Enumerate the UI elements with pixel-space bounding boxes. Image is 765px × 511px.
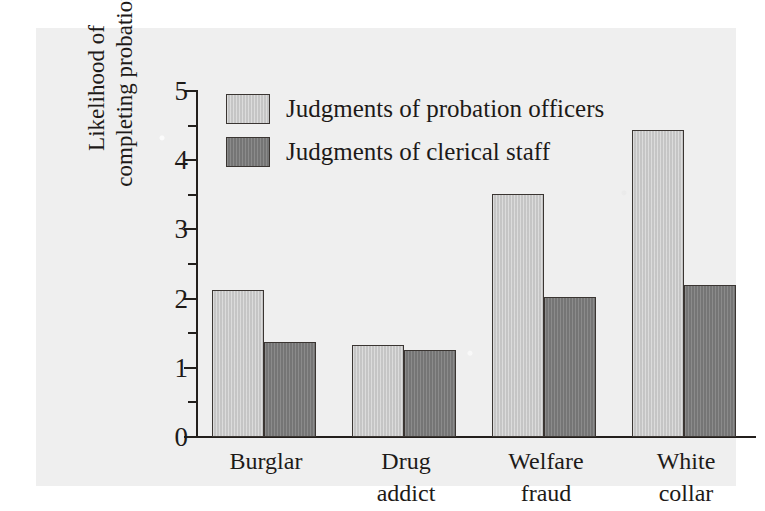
y-axis-tick-minor <box>188 125 196 127</box>
legend-item-1[interactable]: Judgments of probation officers <box>226 90 604 127</box>
x-axis-label-line: White <box>616 446 756 478</box>
x-axis-label-burglar: Burglar <box>196 446 336 478</box>
y-axis-tick-label: 0 <box>175 424 189 451</box>
x-axis-label-line: fraud <box>476 478 616 510</box>
y-axis-tick-label: 2 <box>175 285 189 312</box>
figure-bar-chart: Likelihood of completing probation 01234… <box>0 0 765 511</box>
legend-item-2[interactable]: Judgments of clerical staff <box>226 133 604 170</box>
chart-panel: Likelihood of completing probation 01234… <box>36 28 736 486</box>
legend-label-2: Judgments of clerical staff <box>286 139 550 164</box>
legend-swatch-1 <box>226 94 270 124</box>
bar-white-collar-series-2[interactable] <box>684 285 736 437</box>
x-axis-label-line: collar <box>616 478 756 510</box>
chart-legend: Judgments of probation officersJudgments… <box>226 90 604 176</box>
y-axis-title-line1: Likelihood of <box>83 0 111 208</box>
y-axis-tick-label: 5 <box>175 78 189 105</box>
y-axis-tick-minor <box>188 194 196 196</box>
y-axis-tick-minor <box>188 332 196 334</box>
legend-swatch-2 <box>226 137 270 167</box>
y-axis-tick-label: 3 <box>175 216 189 243</box>
bar-drug-addict-series-2[interactable] <box>404 350 456 437</box>
y-axis-title-line2: completing probation <box>111 0 139 208</box>
y-axis-tick-label: 4 <box>175 147 189 174</box>
bar-burglar-series-1[interactable] <box>212 290 264 437</box>
x-axis-label-line: Welfare <box>476 446 616 478</box>
x-axis-label-drug-addict: Drugaddict <box>336 446 476 509</box>
x-axis-label-line: addict <box>336 478 476 510</box>
y-axis-tick-label: 1 <box>175 354 189 381</box>
y-axis-title: Likelihood of completing probation <box>83 0 143 208</box>
x-axis-label-line: Burglar <box>196 446 336 478</box>
x-axis-label-line: Drug <box>336 446 476 478</box>
y-axis-tick-minor <box>188 401 196 403</box>
legend-label-1: Judgments of probation officers <box>286 96 604 121</box>
bar-drug-addict-series-1[interactable] <box>352 345 404 437</box>
bar-burglar-series-2[interactable] <box>264 342 316 437</box>
x-axis-label-white-collar: Whitecollar <box>616 446 756 509</box>
y-axis-tick-minor <box>188 263 196 265</box>
bar-welfare-fraud-series-1[interactable] <box>492 194 544 437</box>
bar-white-collar-series-1[interactable] <box>632 130 684 437</box>
bar-welfare-fraud-series-2[interactable] <box>544 297 596 437</box>
x-axis-label-welfare-fraud: Welfarefraud <box>476 446 616 509</box>
